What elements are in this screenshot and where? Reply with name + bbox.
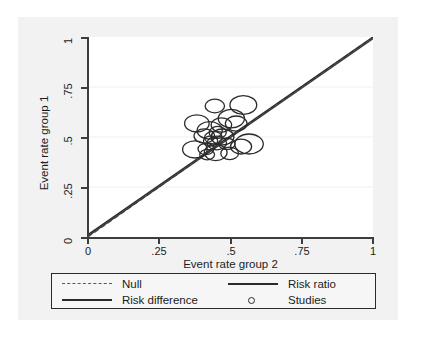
y-tick-1	[81, 37, 87, 39]
legend-row-bottom: Risk difference Studies	[52, 291, 375, 309]
chart-legend: Null Risk ratio Risk difference Studies	[51, 273, 376, 309]
y-ticklabel-5-text: .5	[62, 136, 74, 145]
x-ticklabel-5: .5	[214, 245, 248, 257]
y-ticklabel-1-text: 1	[62, 38, 74, 44]
graph-region: 1 .75 .5 .25 0 0 .25 .5 .75 1 Event rate…	[18, 17, 398, 267]
y-ticklabel-1: 1	[58, 31, 78, 43]
open-circle-key-icon	[224, 291, 282, 309]
x-ticklabel-1: 1	[356, 245, 390, 257]
legend-label-null: Null	[122, 278, 142, 290]
y-ticklabel-0-text: 0	[62, 238, 74, 244]
plot-canvas	[88, 37, 373, 237]
legend-label-studies: Studies	[288, 294, 326, 306]
study-bubble	[225, 116, 247, 131]
y-tick-25	[81, 187, 87, 189]
x-tick-75	[301, 238, 303, 244]
y-ticklabel-25-text: .25	[62, 183, 74, 198]
study-bubble	[230, 96, 257, 115]
plot-area	[88, 37, 373, 237]
y-ticklabel-5: .5	[58, 131, 78, 143]
legend-item-risk-difference: Risk difference	[58, 291, 198, 309]
y-ticklabel-75: .75	[58, 81, 78, 93]
y-ticklabel-75-text: .75	[62, 83, 74, 98]
x-ticklabel-25: .25	[142, 245, 176, 257]
reference-line-risk-difference	[88, 37, 373, 235]
y-ticklabel-25: .25	[58, 181, 78, 193]
x-ticklabel-0: 0	[71, 245, 105, 257]
legend-label-risk-ratio: Risk ratio	[288, 278, 336, 290]
legend-item-studies: Studies	[224, 291, 326, 309]
x-tick-25	[158, 238, 160, 244]
y-tick-5	[81, 137, 87, 139]
legend-label-risk-difference: Risk difference	[122, 294, 198, 306]
study-bubble	[205, 99, 224, 113]
y-axis-line	[87, 37, 89, 238]
x-ticklabel-75: .75	[285, 245, 319, 257]
x-tick-5	[230, 238, 232, 244]
x-tick-0	[87, 238, 89, 244]
y-axis-title: Event rate group 1	[38, 73, 50, 213]
x-axis-title: Event rate group 2	[88, 258, 373, 270]
figure-canvas: 1 .75 .5 .25 0 0 .25 .5 .75 1 Event rate…	[18, 17, 398, 320]
study-bubbles	[183, 96, 264, 161]
x-tick-1	[372, 238, 374, 244]
solid-line-key-icon-2	[58, 291, 116, 309]
y-tick-75	[81, 87, 87, 89]
y-ticklabel-0: 0	[58, 231, 78, 243]
